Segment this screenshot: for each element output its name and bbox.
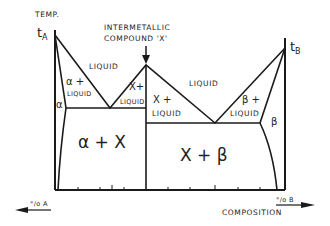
percent-b-label: °/o B xyxy=(276,196,294,204)
region-x-beta: X + β xyxy=(180,145,228,165)
region-x-liquid-left-1: X+ xyxy=(129,81,144,92)
temp-label: TEMP. xyxy=(34,10,60,19)
tb-label: tB xyxy=(290,39,301,56)
alpha-solidus xyxy=(55,35,66,108)
region-liquid-left: LIQUID xyxy=(89,62,118,71)
region-liquid-right: LIQUID xyxy=(189,79,218,88)
ta-label: tA xyxy=(37,25,48,42)
compound-annotation-line1: INTERMETALLIC xyxy=(104,23,170,32)
left-arrow-icon xyxy=(15,207,28,213)
region-beta-liquid-1: β + xyxy=(242,94,260,105)
phase-diagram: TEMP. tA tB INTERMETALLIC COMPOUND 'X' L… xyxy=(0,0,330,226)
region-x-liquid-right-2: LIQUID xyxy=(152,109,181,118)
compound-annotation-line2: COMPOUND 'X' xyxy=(104,34,168,43)
region-x-liquid-left-2: LIQUID xyxy=(120,98,145,106)
region-x-liquid-right-1: X + xyxy=(153,94,171,105)
beta-solvus xyxy=(260,123,277,190)
region-alpha-liquid-1: α + xyxy=(66,76,84,87)
percent-a-label: °/o A xyxy=(30,200,48,208)
region-alpha: α xyxy=(56,99,63,110)
composition-label: COMPOSITION xyxy=(222,208,282,217)
right-arrow-icon xyxy=(301,202,315,208)
beta-solidus xyxy=(260,48,285,123)
region-alpha-liquid-2: LIQUID xyxy=(67,90,92,98)
region-beta-liquid-2: LIQUID xyxy=(230,109,259,118)
alpha-solvus xyxy=(58,108,66,190)
region-alpha-x: α + X xyxy=(78,132,126,152)
region-beta: β xyxy=(271,116,277,127)
compound-arrow-icon xyxy=(142,55,150,64)
